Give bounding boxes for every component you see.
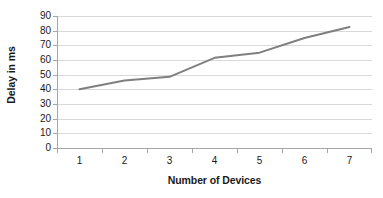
y-axis-tick-label: 70 bbox=[40, 40, 51, 50]
x-axis-tick-mark bbox=[282, 149, 283, 153]
y-axis-title: Delay in ms bbox=[0, 0, 22, 150]
x-axis-tick-label: 2 bbox=[122, 155, 128, 167]
y-axis-tick-label: 10 bbox=[40, 128, 51, 138]
y-axis-tick-label: 80 bbox=[40, 26, 51, 36]
y-axis-tick-label: 0 bbox=[45, 143, 51, 153]
x-axis-tick-label: 4 bbox=[212, 155, 218, 167]
x-axis-tick-marks bbox=[57, 149, 372, 153]
series-line-delay bbox=[80, 27, 350, 89]
x-axis-tick-mark bbox=[371, 149, 372, 153]
x-axis-tick-labels: 1234567 bbox=[57, 155, 372, 169]
y-axis-tick-label: 50 bbox=[40, 70, 51, 80]
x-axis-tick-label: 3 bbox=[167, 155, 173, 167]
y-axis-tick-label: 60 bbox=[40, 55, 51, 65]
x-axis-tick-mark bbox=[147, 149, 148, 153]
y-axis-tick-label: 90 bbox=[40, 11, 51, 21]
x-axis-tick-mark bbox=[192, 149, 193, 153]
y-axis-tick-label: 20 bbox=[40, 114, 51, 124]
y-axis-tick-label: 30 bbox=[40, 99, 51, 109]
y-axis-title-text: Delay in ms bbox=[5, 46, 17, 103]
x-axis-tick-mark bbox=[327, 149, 328, 153]
x-axis-title: Number of Devices bbox=[57, 174, 372, 186]
x-axis-tick-label: 1 bbox=[77, 155, 83, 167]
line-chart: Delay in ms 0102030405060708090 1234567 … bbox=[0, 0, 383, 198]
y-axis-tick-labels: 0102030405060708090 bbox=[22, 0, 55, 160]
data-series-layer bbox=[57, 16, 372, 148]
x-axis-tick-label: 6 bbox=[302, 155, 308, 167]
plot-area bbox=[57, 16, 372, 148]
x-axis-tick-mark bbox=[57, 149, 58, 153]
y-axis-tick-label: 40 bbox=[40, 84, 51, 94]
x-axis-tick-mark bbox=[102, 149, 103, 153]
x-axis-tick-mark bbox=[237, 149, 238, 153]
x-axis-tick-label: 5 bbox=[257, 155, 263, 167]
x-axis-tick-label: 7 bbox=[347, 155, 353, 167]
y-axis-line bbox=[57, 16, 58, 149]
